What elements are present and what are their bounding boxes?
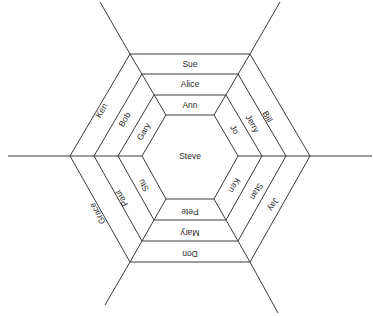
ring3-top-label: Sue [182,59,197,69]
ring1-bottom-label: Pete [181,207,199,217]
spoke-top-right [250,2,280,54]
ring2-top-right-label: Jerry [244,113,262,135]
ring2-top-label: Alice [181,79,200,89]
ring1-bottom-right-label: Ken [226,176,242,194]
ring3-top-right-label: Bill [260,109,274,124]
ring3-top-left-label: Ken [93,101,109,119]
spoke-top-left [100,2,130,54]
ring2-bottom-left-label: Paul [113,189,130,209]
ring2-bottom-right-label: Stan [248,181,266,201]
ring2-bottom-label: Mary [180,228,200,238]
spoke-bottom-left [105,262,130,305]
center-label: Steve [179,151,201,161]
ring1-top-label: Ann [182,100,197,110]
ring3-bottom-label: Don [182,249,198,259]
ring1-top-right-label: Jo [228,123,241,136]
hexagon-diagram: Steve Sue Alice Ann Pete Mary Don Ken Bo… [0,0,373,316]
spoke-bottom-right [250,262,278,313]
ring3-bottom-left-label: Grace [87,201,107,226]
